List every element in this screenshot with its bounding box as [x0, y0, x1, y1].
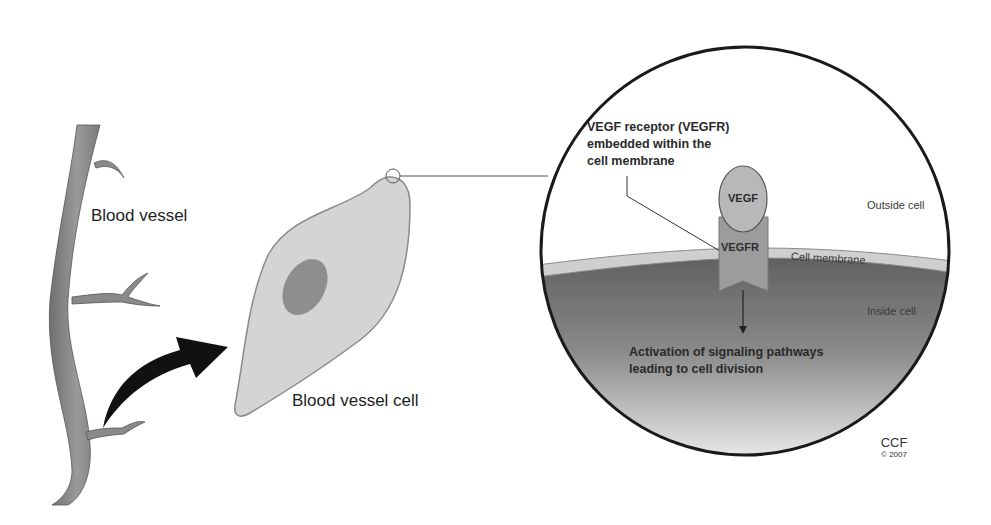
activation-line-1: Activation of signaling pathways — [629, 344, 823, 361]
label-receptor-callout: VEGF receptor (VEGFR) embedded within th… — [587, 119, 729, 170]
blood-vessel-cell — [235, 169, 548, 416]
magnified-membrane-view — [530, 47, 960, 470]
label-blood-vessel-cell: Blood vessel cell — [292, 391, 419, 411]
credit: CCF © 2007 — [874, 436, 914, 459]
label-inside-cell: Inside cell — [867, 305, 916, 317]
callout-line-2: embedded within the — [587, 136, 729, 153]
label-outside-cell: Outside cell — [867, 199, 924, 211]
label-activation: Activation of signaling pathways leading… — [629, 344, 823, 378]
label-vegf: VEGF — [728, 192, 758, 204]
label-vegfr: VEGFR — [721, 241, 759, 253]
activation-line-2: leading to cell division — [629, 361, 823, 378]
callout-line-3: cell membrane — [587, 153, 729, 170]
label-blood-vessel: Blood vessel — [91, 206, 187, 226]
callout-line-1: VEGF receptor (VEGFR) — [587, 119, 729, 136]
diagram-canvas: Blood vessel Blood vessel cell VEGF rece… — [0, 0, 991, 525]
curved-arrow-icon — [103, 337, 228, 428]
credit-year: © 2007 — [874, 450, 914, 459]
blood-vessel — [49, 125, 160, 505]
credit-org: CCF — [874, 436, 914, 450]
